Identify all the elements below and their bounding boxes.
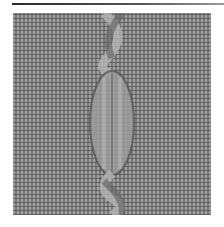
cable-shape-icon xyxy=(82,13,142,215)
knit-swatch-photo xyxy=(13,13,211,215)
cable-twist xyxy=(82,13,142,215)
top-rule xyxy=(12,3,224,5)
